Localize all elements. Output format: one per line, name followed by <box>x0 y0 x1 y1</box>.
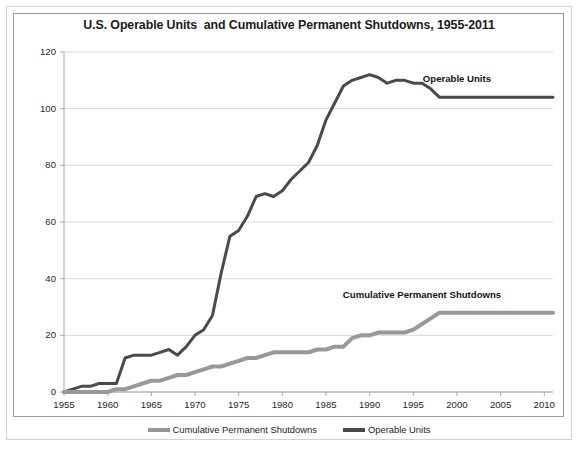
y-tick-label-80: 80 <box>10 159 56 170</box>
x-tick-label-2010: 2010 <box>519 399 569 410</box>
y-tick-label-20: 20 <box>10 329 56 340</box>
series-line-cumulative-permanent-shutdowns <box>64 313 553 392</box>
x-axis-ticks <box>64 392 544 396</box>
legend-item-1[interactable]: Operable Units <box>343 424 431 435</box>
y-tick-label-100: 100 <box>10 103 56 114</box>
x-tick-label-1985: 1985 <box>301 399 351 410</box>
x-tick-label-1960: 1960 <box>83 399 133 410</box>
y-tick-label-120: 120 <box>10 46 56 57</box>
gridlines <box>64 52 553 392</box>
y-tick-label-0: 0 <box>10 386 56 397</box>
y-tick-label-40: 40 <box>10 273 56 284</box>
legend-label: Cumulative Permanent Shutdowns <box>173 424 317 435</box>
series-line-operable-units <box>64 75 553 392</box>
x-tick-label-1970: 1970 <box>170 399 220 410</box>
x-tick-label-2005: 2005 <box>476 399 526 410</box>
x-tick-label-1975: 1975 <box>214 399 264 410</box>
cumulative-permanent-shutdowns-label: Cumulative Permanent Shutdowns <box>343 289 501 300</box>
chart-legend: Cumulative Permanent ShutdownsOperable U… <box>0 424 578 435</box>
y-tick-label-60: 60 <box>10 216 56 227</box>
data-series <box>64 75 553 392</box>
legend-item-0[interactable]: Cumulative Permanent Shutdowns <box>148 424 317 435</box>
x-tick-label-1990: 1990 <box>345 399 395 410</box>
y-axis-ticks <box>60 52 64 392</box>
legend-swatch-icon <box>343 428 365 432</box>
operable-units-label: Operable Units <box>423 73 491 84</box>
x-tick-label-1955: 1955 <box>39 399 89 410</box>
x-tick-label-1995: 1995 <box>388 399 438 410</box>
x-tick-label-2000: 2000 <box>432 399 482 410</box>
x-tick-label-1965: 1965 <box>126 399 176 410</box>
legend-label: Operable Units <box>368 424 431 435</box>
chart-figure: U.S. Operable Units and Cumulative Perma… <box>0 0 578 452</box>
chart-plot <box>0 0 578 452</box>
x-tick-label-1980: 1980 <box>257 399 307 410</box>
legend-swatch-icon <box>148 428 170 432</box>
